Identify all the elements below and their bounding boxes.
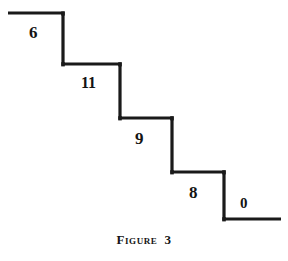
staircase-polyline bbox=[8, 13, 281, 219]
step-label-6: 6 bbox=[29, 24, 37, 41]
figure-caption: Figure3 bbox=[0, 232, 288, 248]
staircase-diagram bbox=[0, 0, 288, 261]
staircase-path-group bbox=[8, 13, 281, 219]
figure-caption-word: Figure bbox=[116, 232, 157, 247]
step-label-0: 0 bbox=[240, 196, 247, 211]
step-label-11: 11 bbox=[81, 75, 96, 91]
figure-caption-number: 3 bbox=[164, 232, 171, 247]
step-label-8: 8 bbox=[189, 184, 197, 201]
figure-container: 6 11 9 8 0 Figure3 bbox=[0, 0, 288, 261]
step-label-9: 9 bbox=[135, 130, 143, 147]
